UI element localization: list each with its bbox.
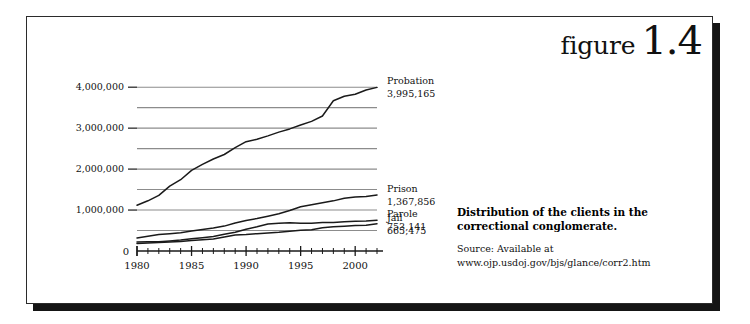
figure-caption: Distribution of the clients in the corre… [457, 205, 707, 270]
figure-panel-root: figure 1.4 1,000,0002,000,0003,000,0004,… [0, 0, 750, 324]
y-tick-label: 2,000,000 [76, 163, 124, 174]
x-tick-label: 1980 [124, 260, 149, 271]
series-end-value-probation: 3,995,165 [387, 88, 435, 99]
series-end-value-jail: 665,475 [387, 225, 426, 236]
series-end-label-jail: Jail [386, 212, 403, 223]
caption-source-url: www.ojp.usdoj.gov/bjs/glance/corr2.htm [457, 256, 707, 270]
figure-heading-number: 1.4 [641, 23, 702, 57]
x-tick-label: 1985 [179, 260, 204, 271]
series-line-prison [137, 195, 377, 238]
line-chart: 1,000,0002,000,0003,000,0004,000,0000198… [65, 35, 460, 291]
figure-heading-word: figure [560, 31, 635, 60]
series-end-label-probation: Probation [387, 75, 434, 86]
line-chart-svg: 1,000,0002,000,0003,000,0004,000,0000198… [65, 35, 460, 291]
x-tick-label: 1995 [288, 260, 313, 271]
y-origin-label: 0 [123, 246, 129, 257]
series-end-label-prison: Prison [387, 183, 418, 194]
y-tick-label: 1,000,000 [76, 204, 124, 215]
series-line-probation [137, 87, 377, 205]
caption-title: Distribution of the clients in the corre… [457, 205, 707, 233]
y-tick-label: 4,000,000 [76, 81, 124, 92]
caption-source-label: Source: Available at [457, 242, 707, 256]
x-tick-label: 2000 [342, 260, 367, 271]
figure-panel: figure 1.4 1,000,0002,000,0003,000,0004,… [26, 16, 713, 304]
y-tick-label: 3,000,000 [76, 122, 124, 133]
x-tick-label: 1990 [233, 260, 258, 271]
series-end-value-prison: 1,367,856 [387, 196, 435, 207]
figure-heading: figure 1.4 [560, 23, 702, 60]
